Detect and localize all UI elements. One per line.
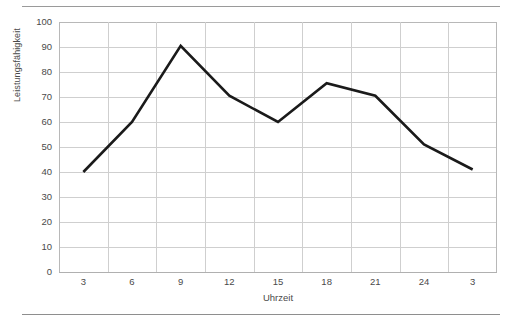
x-axis-tick-label: 21 (351, 276, 399, 288)
y-axis-tick-label: 20 (6, 217, 52, 227)
x-axis-tick-labels: 36912151821243 (59, 276, 497, 292)
y-axis-tick-label: 80 (6, 67, 52, 77)
y-axis-tick-label: 30 (6, 192, 52, 202)
y-axis-tick-label: 10 (6, 242, 52, 252)
x-axis-tick-label: 3 (449, 276, 497, 288)
x-axis-tick-label: 6 (108, 276, 156, 288)
x-axis-tick-label: 3 (59, 276, 107, 288)
x-axis-tick-label: 18 (303, 276, 351, 288)
y-axis-tick-label: 90 (6, 42, 52, 52)
x-axis-title: Uhrzeit (59, 292, 497, 303)
data-series-line (59, 22, 497, 272)
chart-figure: Leistungsfähigkeit 010203040506070809010… (0, 0, 515, 325)
y-axis-tick-label: 60 (6, 117, 52, 127)
y-axis-tick-label: 100 (6, 17, 52, 27)
plot-area (59, 22, 497, 272)
bottom-divider-rule (22, 314, 500, 315)
series-polyline (83, 46, 472, 172)
y-axis-tick-label: 40 (6, 167, 52, 177)
y-axis-tick-label: 0 (6, 267, 52, 277)
x-axis-tick-label: 9 (157, 276, 205, 288)
chart-plot-container: Leistungsfähigkeit 010203040506070809010… (0, 10, 515, 310)
y-axis-tick-labels: 0102030405060708090100 (0, 22, 52, 272)
y-axis-tick-label: 70 (6, 92, 52, 102)
x-axis-tick-label: 15 (254, 276, 302, 288)
gridline-horizontal (59, 272, 497, 273)
top-divider-rule (22, 6, 500, 7)
y-axis-tick-label: 50 (6, 142, 52, 152)
x-axis-tick-label: 12 (205, 276, 253, 288)
x-axis-tick-label: 24 (400, 276, 448, 288)
